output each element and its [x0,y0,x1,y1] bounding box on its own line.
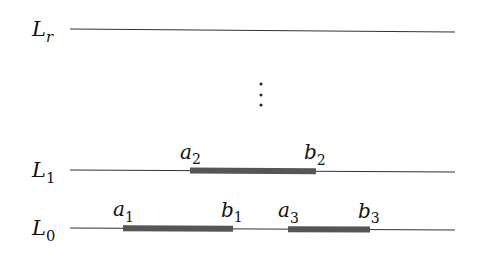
vertical-ellipsis [260,83,263,107]
endpoint-a3: a3 [278,198,299,226]
levels-diagram: LrL1a2b2L0a1b1a3b3 [0,0,480,257]
level-r: Lr [31,17,455,45]
level-1: L1a2b2 [31,140,455,186]
level-0: L0a1b1a3b3 [31,197,455,244]
level-label-0: L0 [31,216,55,244]
endpoint-b3: b3 [358,199,380,227]
level-label-r: Lr [31,17,54,45]
interval-a1 [123,228,233,229]
endpoint-b2: b2 [304,140,326,168]
level-line-r [70,29,455,32]
endpoint-a1: a1 [113,197,134,225]
endpoint-b1: b1 [221,198,243,226]
diagram-canvas: LrL1a2b2L0a1b1a3b3 [0,0,480,257]
level-label-1: L1 [31,158,55,186]
endpoint-a2: a2 [180,140,201,168]
interval-a2 [190,171,316,172]
